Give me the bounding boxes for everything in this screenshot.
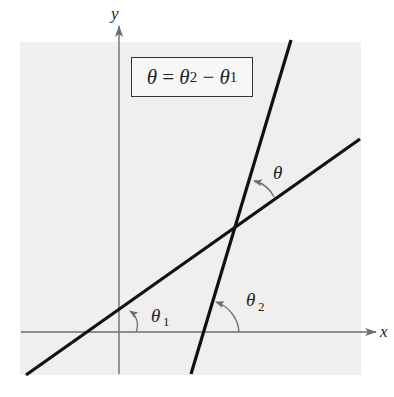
svg-text:θ: θ (151, 305, 160, 326)
svg-text:θ: θ (246, 289, 255, 310)
eq-theta2-sub: 2 (190, 69, 198, 86)
y-axis-label: y (109, 4, 119, 23)
svg-text:1: 1 (163, 314, 170, 329)
eq-theta2: θ (179, 65, 189, 90)
eq-minus: − (197, 65, 219, 90)
eq-theta1-sub: 1 (230, 69, 238, 86)
svg-text:2: 2 (258, 299, 265, 314)
equation-box: θ = θ2 − θ1 (131, 57, 253, 97)
x-axis-label: x (379, 322, 388, 341)
eq-equals: = (157, 65, 179, 90)
eq-theta1: θ (220, 65, 230, 90)
eq-theta: θ (147, 65, 157, 90)
theta-label: θ (273, 162, 282, 183)
